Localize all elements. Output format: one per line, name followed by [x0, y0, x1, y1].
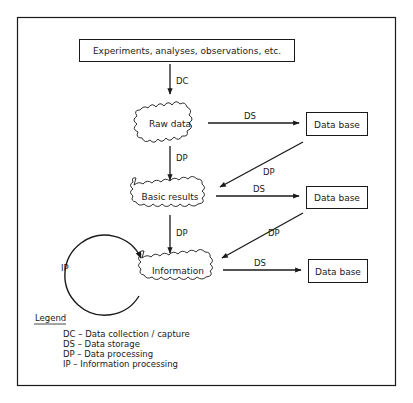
database-1: Data base [307, 113, 368, 136]
edge-label-ds: DS [254, 258, 266, 268]
database-2: Data base [307, 187, 368, 209]
edge-basic-to-info: DP [170, 215, 188, 253]
legend-item-ds: DS – Data storage [63, 339, 140, 349]
database-1-label: Data base [314, 120, 360, 130]
edge-source-to-raw: DC [170, 64, 189, 94]
edge-label-ip: IP [61, 263, 69, 273]
edge-label-dc: DC [176, 76, 189, 86]
node-information-label: Information [152, 266, 204, 276]
edge-db1-to-basic: DP [220, 142, 303, 187]
edge-label-dp: DP [176, 228, 188, 238]
edge-label-dp: DP [263, 167, 275, 177]
database-2-label: Data base [314, 193, 360, 203]
edge-label-ds: DS [244, 111, 256, 121]
node-basic-results-label: Basic results [142, 192, 199, 202]
edge-label-dp: DP [268, 228, 280, 238]
legend: Legend DC – Data collection / capture DS… [34, 313, 190, 369]
legend-item-dp: DP – Data processing [63, 349, 153, 359]
source-box: Experiments, analyses, observations, etc… [80, 40, 295, 62]
data-flow-diagram: Experiments, analyses, observations, etc… [0, 0, 413, 403]
database-3-label: Data base [315, 267, 361, 277]
edge-info-to-db3: DS [223, 258, 301, 270]
legend-item-ip: IP – Information processing [63, 359, 178, 369]
edge-label-ds: DS [253, 184, 265, 194]
source-box-label: Experiments, analyses, observations, etc… [93, 46, 281, 56]
legend-title: Legend [35, 313, 66, 323]
node-information: Information [139, 250, 213, 280]
node-raw-data-label: Raw data [149, 119, 191, 129]
edge-info-loop: IP [61, 235, 141, 315]
edge-raw-to-basic: DP [170, 146, 188, 180]
legend-item-dc: DC – Data collection / capture [63, 329, 190, 339]
node-raw-data: Raw data [134, 102, 192, 143]
edge-label-dp: DP [176, 153, 188, 163]
edge-db2-to-info: DP [222, 213, 303, 258]
edge-basic-to-db2: DS [216, 184, 299, 196]
node-basic-results: Basic results [131, 177, 205, 207]
edge-raw-to-db1: DS [208, 111, 299, 123]
database-3: Data base [309, 260, 368, 283]
